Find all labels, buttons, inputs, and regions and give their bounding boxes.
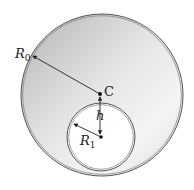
offset-label: h	[96, 108, 104, 123]
center-point-c	[98, 92, 102, 96]
center-label: C	[104, 84, 114, 99]
inner-center-point	[99, 135, 103, 139]
eccentric-circles-diagram: R0 C h R1	[0, 0, 194, 190]
outer-radius-label: R0	[14, 46, 31, 63]
